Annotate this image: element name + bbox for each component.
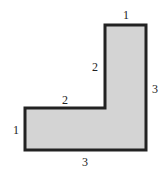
label-right: 3 <box>152 82 158 96</box>
l-shape-polygon <box>25 25 146 150</box>
label-top: 1 <box>123 8 129 22</box>
label-inner-horizontal: 2 <box>62 93 68 107</box>
label-left: 1 <box>13 123 19 137</box>
l-shape-diagram: 1 2 3 2 1 3 <box>0 0 165 172</box>
label-inner-vertical: 2 <box>92 60 98 74</box>
label-bottom: 3 <box>82 155 88 169</box>
